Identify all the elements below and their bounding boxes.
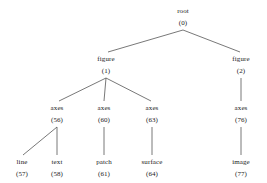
edge-figure1-to-axes56 xyxy=(59,78,106,101)
node-figure-2: figure (2) xyxy=(232,56,249,75)
node-axes-60-label: axes xyxy=(98,105,111,112)
node-figure-1: figure (1) xyxy=(97,56,114,75)
node-axes-60: axes (60) xyxy=(98,105,111,124)
node-axes-56: axes (56) xyxy=(51,105,64,124)
edge-figure1-to-axes63 xyxy=(106,78,151,101)
node-axes-56-label: axes xyxy=(51,105,64,112)
node-figure-2-label: figure xyxy=(232,56,249,63)
edge-root-to-figure2 xyxy=(183,30,240,52)
node-surface-64: surface (64) xyxy=(142,159,163,178)
node-text-58-id: (58) xyxy=(51,171,63,178)
node-image-77: image (77) xyxy=(232,159,250,178)
node-line-57-label: line xyxy=(16,159,28,166)
node-text-58: text (58) xyxy=(51,159,63,178)
node-surface-64-id: (64) xyxy=(142,171,163,178)
node-axes-56-id: (56) xyxy=(51,117,64,124)
node-root-label: root xyxy=(177,8,189,15)
node-patch-61: patch (61) xyxy=(96,159,112,178)
node-text-58-label: text xyxy=(51,159,63,166)
node-image-77-id: (77) xyxy=(232,171,250,178)
tree-diagram: root (0) figure (1) figure (2) axes (56)… xyxy=(0,0,267,183)
edge-root-to-figure1 xyxy=(108,30,183,52)
node-axes-60-id: (60) xyxy=(98,117,111,124)
node-root: root (0) xyxy=(177,8,189,27)
node-figure-1-id: (1) xyxy=(97,68,114,75)
node-figure-1-label: figure xyxy=(97,56,114,63)
node-axes-76-id: (76) xyxy=(235,117,248,124)
tree-edges xyxy=(0,0,267,183)
node-surface-64-label: surface xyxy=(142,159,163,166)
node-axes-63: axes (63) xyxy=(146,105,159,124)
node-line-57: line (57) xyxy=(16,159,28,178)
node-patch-61-label: patch xyxy=(96,159,112,166)
node-axes-63-id: (63) xyxy=(146,117,159,124)
node-axes-63-label: axes xyxy=(146,105,159,112)
node-axes-76-label: axes xyxy=(235,105,248,112)
node-root-id: (0) xyxy=(177,20,189,27)
node-axes-76: axes (76) xyxy=(235,105,248,124)
node-line-57-id: (57) xyxy=(16,171,28,178)
edge-figure1-to-axes60 xyxy=(104,78,106,101)
edge-axes56-to-line57 xyxy=(23,127,57,155)
node-image-77-label: image xyxy=(232,159,250,166)
node-figure-2-id: (2) xyxy=(232,68,249,75)
node-patch-61-id: (61) xyxy=(96,171,112,178)
